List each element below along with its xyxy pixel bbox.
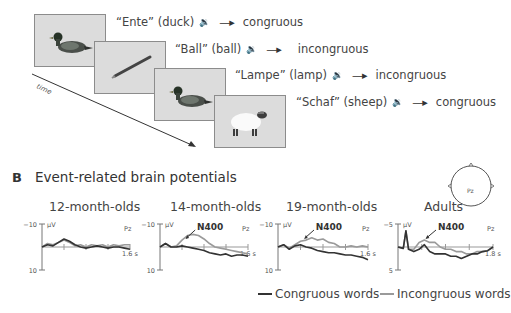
- y-tick-top: −10: [23, 221, 37, 229]
- speaker-icon: 🔉: [332, 70, 343, 80]
- y-tick-top: −10: [259, 221, 273, 229]
- x-end-label: 1.6 s: [240, 250, 256, 258]
- channel-label: Pz: [487, 225, 495, 233]
- y-axis-unit: μV: [403, 221, 412, 229]
- x-end-label: 1.6 s: [122, 250, 138, 258]
- electrode-label: Pz: [467, 187, 474, 194]
- channel-label: Pz: [362, 225, 370, 233]
- y-tick-top: −10: [141, 221, 155, 229]
- sheep-icon: [215, 96, 285, 147]
- chart-title-14mo: 14-month-olds: [170, 199, 261, 214]
- stimulus-card-sheep: [214, 95, 286, 148]
- chart-title-12mo: 12-month-olds: [49, 199, 140, 214]
- erp-chart-adults: −55μVPz1.8 sN400: [378, 218, 503, 280]
- legend-swatch-congruous: [258, 293, 272, 295]
- n400-annotation: N400: [438, 222, 464, 232]
- stimulus-word: “Ente” (duck): [116, 15, 194, 29]
- trial-row-2: “Ball” (ball) 🔉 —▸ incongruous: [175, 42, 369, 56]
- speaker-icon: 🔉: [199, 17, 210, 27]
- trial-condition: incongruous: [298, 42, 369, 56]
- y-axis-unit: μV: [47, 221, 56, 229]
- arrow-icon: —▸: [266, 43, 281, 56]
- y-tick-bottom: 5: [389, 267, 393, 275]
- speaker-icon: 🔉: [392, 97, 403, 107]
- trial-row-3: “Lampe” (lamp) 🔉 —▸ incongruous: [235, 68, 446, 82]
- erp-chart-19mo: −1010μVPz1.6 sN400: [258, 218, 378, 280]
- channel-label: Pz: [124, 225, 132, 233]
- legend-label-congruous: Congruous words: [275, 287, 379, 301]
- n400-annotation: N400: [316, 222, 342, 232]
- y-tick-bottom: 10: [29, 267, 37, 275]
- trial-row-1: “Ente” (duck) 🔉 —▸ congruous: [116, 15, 303, 29]
- channel-label: Pz: [242, 225, 250, 233]
- panel-title: Event-related brain potentials: [35, 169, 237, 185]
- trial-condition: incongruous: [376, 68, 447, 82]
- y-tick-bottom: 10: [147, 267, 155, 275]
- time-axis-label: time: [35, 83, 53, 97]
- stimulus-word: “Lampe” (lamp): [235, 68, 327, 82]
- speaker-icon: 🔉: [246, 44, 257, 54]
- erp-chart-14mo: −1010μVPz1.6 sN400: [140, 218, 258, 280]
- trial-condition: congruous: [436, 95, 496, 109]
- chart-title-19mo: 19-month-olds: [286, 199, 377, 214]
- arrow-icon: —▸: [352, 69, 367, 82]
- stimulus-word: “Schaf” (sheep): [296, 95, 387, 109]
- stimulus-word: “Ball” (ball): [175, 42, 241, 56]
- trial-condition: congruous: [243, 15, 303, 29]
- y-tick-top: −5: [383, 221, 393, 229]
- legend-congruous: Congruous words: [258, 287, 379, 301]
- erp-chart-12mo: −1010μVPz1.6 s: [22, 218, 140, 280]
- y-axis-unit: μV: [283, 221, 292, 229]
- arrow-icon: —▸: [412, 96, 427, 109]
- y-axis-unit: μV: [165, 221, 174, 229]
- trial-row-4: “Schaf” (sheep) 🔉 —▸ congruous: [296, 95, 496, 109]
- legend-label-incongruous: Incongruous words: [397, 287, 511, 301]
- legend-swatch-incongruous: [380, 293, 394, 295]
- legend-incongruous: Incongruous words: [380, 287, 511, 301]
- y-tick-bottom: 10: [265, 267, 273, 275]
- n400-annotation: N400: [197, 222, 223, 232]
- panel-label: B: [12, 170, 22, 185]
- chart-title-adults: Adults: [424, 199, 463, 214]
- arrow-icon: —▸: [219, 16, 234, 29]
